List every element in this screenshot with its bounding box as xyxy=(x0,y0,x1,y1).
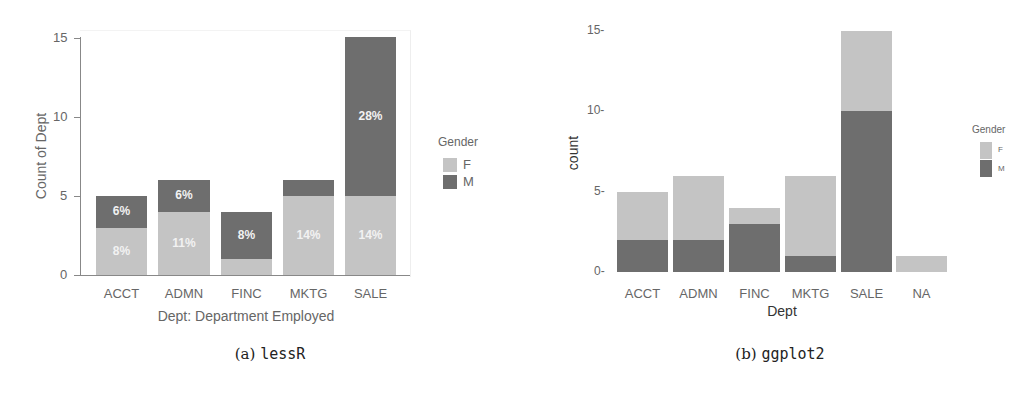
legend-label-f: F xyxy=(998,145,1003,154)
legend-swatch-f xyxy=(980,142,992,159)
legend-label-f: F xyxy=(463,157,471,172)
bar-admn-m: 6% xyxy=(158,180,210,212)
x-tick: ACCT xyxy=(96,286,147,301)
legend-title: Gender xyxy=(438,135,478,149)
y-tick: 10 xyxy=(53,109,67,124)
y-tick: 15- xyxy=(587,23,604,37)
bar-mktg-m xyxy=(785,256,836,272)
y-tick: 15 xyxy=(53,30,67,45)
y-axis-line xyxy=(80,37,81,276)
y-tick: 5- xyxy=(594,184,605,198)
legend-swatch-f xyxy=(443,158,457,172)
bar-acct-m: 6% xyxy=(96,196,147,228)
bar-sale-m xyxy=(841,111,892,272)
bar-finc-f xyxy=(221,259,272,275)
bar-mktg-m xyxy=(283,180,334,196)
legend-label-m: M xyxy=(998,164,1005,173)
bar-acct-f: 8% xyxy=(96,228,147,275)
bar-admn-f xyxy=(673,176,724,240)
bar-admn-f: 11% xyxy=(158,212,210,275)
bar-sale-f: 14% xyxy=(345,196,396,275)
x-tick: ADMN xyxy=(673,286,724,301)
x-axis-line xyxy=(80,275,410,276)
bar-mktg-f xyxy=(785,176,836,256)
y-axis-label: Count of Dept xyxy=(33,106,49,206)
caption-b: (b) ggplot2 xyxy=(700,345,860,363)
y-tick: 5 xyxy=(60,188,67,203)
bar-finc-m: 8% xyxy=(221,212,272,259)
y-tick: 10- xyxy=(587,103,604,117)
bar-finc-f xyxy=(729,208,780,224)
legend-swatch-m xyxy=(443,175,457,189)
x-tick: FINC xyxy=(729,286,780,301)
bar-finc-m xyxy=(729,224,780,272)
x-tick: NA xyxy=(896,286,947,301)
bar-acct-m xyxy=(617,240,668,272)
y-tick: 0 xyxy=(60,267,67,282)
x-axis-label: Dept: Department Employed xyxy=(96,308,396,324)
x-tick: FINC xyxy=(221,286,272,301)
x-tick: SALE xyxy=(841,286,892,301)
legend-title: Gender xyxy=(972,124,1005,135)
bar-acct-f xyxy=(617,192,668,240)
caption-a: (a) lessR xyxy=(200,345,340,363)
x-axis-label: Dept xyxy=(742,303,822,319)
x-tick: MKTG xyxy=(283,286,334,301)
x-tick: ACCT xyxy=(617,286,668,301)
y-tick: 0- xyxy=(594,264,605,278)
legend-swatch-m xyxy=(980,160,992,177)
bar-na-f xyxy=(896,256,947,272)
bar-sale-m: 28% xyxy=(345,37,396,196)
bar-mktg-f: 14% xyxy=(283,196,334,275)
y-axis-label: count xyxy=(565,128,581,178)
bar-admn-m xyxy=(673,240,724,272)
bar-sale-f xyxy=(841,31,892,111)
x-tick: MKTG xyxy=(785,286,836,301)
x-tick: ADMN xyxy=(158,286,210,301)
legend-label-m: M xyxy=(463,174,474,189)
x-tick: SALE xyxy=(345,286,396,301)
